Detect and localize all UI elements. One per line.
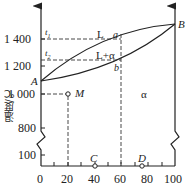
xtick-20: 20 bbox=[61, 173, 73, 185]
point-C bbox=[93, 164, 97, 168]
point-b-label: b bbox=[114, 63, 119, 73]
point-a-label: a bbox=[113, 30, 118, 40]
point-C-label: C bbox=[90, 153, 97, 164]
point-M-label: M bbox=[75, 88, 84, 99]
point-D bbox=[140, 164, 144, 168]
ytick-1200: 1 200 bbox=[4, 60, 31, 72]
xtick-0: 0 bbox=[37, 173, 43, 185]
ytick-100: 100 bbox=[18, 149, 36, 161]
xtick-40: 40 bbox=[88, 173, 100, 185]
label-t2: t2 bbox=[45, 49, 51, 60]
y-axis-label: 温度/℃ bbox=[2, 88, 17, 122]
point-A-label: A bbox=[31, 76, 38, 87]
y-axis bbox=[37, 6, 45, 166]
ytick-1400: 1 400 bbox=[4, 33, 31, 45]
region-alpha: α bbox=[141, 89, 147, 100]
xtick-60: 60 bbox=[114, 173, 126, 185]
right-axis bbox=[171, 6, 179, 166]
region-L: L bbox=[97, 29, 104, 40]
xtick-100: 100 bbox=[164, 173, 182, 185]
point-B-label: B bbox=[178, 19, 185, 30]
label-t1: t1 bbox=[45, 28, 51, 39]
point-D-label: D bbox=[138, 153, 146, 164]
point-M bbox=[66, 92, 70, 96]
ytick-800: 800 bbox=[18, 122, 36, 134]
xtick-80: 80 bbox=[141, 173, 153, 185]
region-L-alpha: L+α bbox=[96, 50, 115, 61]
